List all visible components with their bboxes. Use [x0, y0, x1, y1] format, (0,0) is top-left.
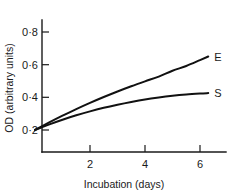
x-axis-title: Incubation (days) — [84, 178, 165, 190]
y-axis-title: OD (arbitrary units) — [3, 43, 15, 132]
data-curve-s — [35, 93, 208, 130]
series-label-e: E — [214, 51, 221, 63]
chart-figure: 0·8 0·6 0·4 0·2 2 4 6 OD (arbitrary unit… — [0, 0, 230, 192]
y-tick-label-0.6: 0·6 — [22, 59, 38, 71]
series-label-s: S — [214, 87, 221, 99]
chart-plot-area: 0·8 0·6 0·4 0·2 2 4 6 OD (arbitrary unit… — [0, 0, 230, 192]
x-tick-label-4: 4 — [142, 158, 148, 170]
x-tick-label-2: 2 — [87, 158, 93, 170]
data-curve-e — [35, 57, 208, 131]
y-tick-label-0.8: 0·8 — [22, 26, 38, 38]
x-tick-label-6: 6 — [197, 158, 203, 170]
y-tick-label-0.4: 0·4 — [22, 91, 38, 103]
